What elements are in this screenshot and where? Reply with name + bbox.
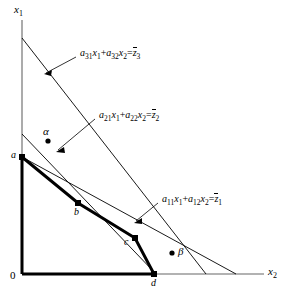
vertex-marker-a bbox=[19, 154, 25, 160]
point-marker-alpha bbox=[45, 138, 50, 143]
leader-line-constraint-1 bbox=[136, 203, 158, 221]
c3-rhs-sub: 3 bbox=[137, 52, 141, 61]
constraint-equation-3: a31x1+a32x2=z3 bbox=[80, 48, 140, 61]
vertex-label-b: b bbox=[74, 207, 79, 217]
c2-a21-sub: 21 bbox=[104, 114, 112, 123]
c3-overline bbox=[133, 47, 137, 48]
constraint-line-2 bbox=[22, 134, 156, 274]
leader-line-constraint-3 bbox=[46, 57, 76, 73]
c1-rhs: z bbox=[214, 193, 218, 204]
c2-rhs: z bbox=[152, 109, 156, 120]
plot-canvas bbox=[0, 0, 292, 299]
c3-a31-sub: 31 bbox=[85, 52, 93, 61]
constraint-equation-1: a11x1+a12x2=z1 bbox=[162, 194, 222, 207]
point-label-alpha: α bbox=[43, 126, 49, 137]
c2-overline bbox=[152, 109, 156, 110]
constraint-equation-2: a21x1+a22x2=z2 bbox=[99, 110, 159, 123]
point-marker-beta bbox=[169, 250, 174, 255]
origin-label: 0 bbox=[10, 270, 16, 281]
y-axis-label: x1 bbox=[14, 4, 23, 18]
lp-feasible-region-figure: x1 x2 0 a b c d α β a31x1+a32x2=z3 a21x1… bbox=[0, 0, 292, 299]
feasible-region-boundary bbox=[22, 157, 154, 274]
c3-rhs: z bbox=[133, 47, 137, 58]
vertex-label-d: d bbox=[151, 278, 156, 288]
y-axis-label-sub: 1 bbox=[19, 9, 23, 18]
c3-rhs-overline-group: z bbox=[133, 48, 137, 58]
c1-a12-sub: 12 bbox=[193, 198, 201, 207]
c2-rhs-sub: 2 bbox=[156, 114, 160, 123]
c1-rhs-overline-group: z bbox=[214, 194, 218, 204]
c2-rhs-overline-group: z bbox=[152, 110, 156, 120]
point-label-beta: β bbox=[178, 246, 183, 257]
vertex-label-a: a bbox=[11, 150, 16, 160]
vertex-marker-c bbox=[132, 235, 138, 241]
x-axis-label-sub: 2 bbox=[273, 271, 277, 280]
leader-line-constraint-2 bbox=[58, 119, 95, 150]
c2-a22-sub: 22 bbox=[130, 114, 138, 123]
vertex-label-c: c bbox=[124, 237, 128, 247]
x-axis-label: x2 bbox=[268, 266, 277, 280]
c3-a32-sub: 32 bbox=[111, 52, 119, 61]
c1-rhs-sub: 1 bbox=[218, 198, 222, 207]
c1-overline bbox=[214, 193, 218, 194]
